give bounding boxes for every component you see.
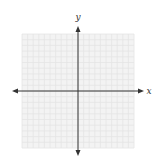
arrow-right-icon [138, 89, 144, 94]
coordinate-plane: y x [0, 0, 159, 164]
arrow-up-icon [76, 26, 81, 32]
y-axis-label: y [74, 12, 81, 22]
arrow-down-icon [76, 150, 81, 156]
arrow-left-icon [12, 89, 18, 94]
x-axis-label: x [146, 86, 151, 96]
